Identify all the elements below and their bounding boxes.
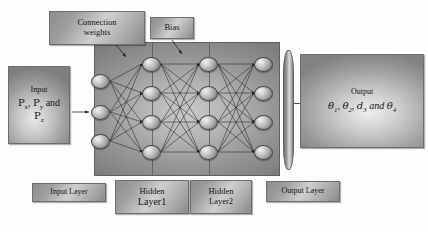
output-conjunction: and (369, 100, 384, 111)
output-variables: θ1, θ2, d3 and θ4 (328, 100, 396, 114)
input-layer-label: Input Layer (32, 183, 106, 202)
input-var-px-sub: x (25, 103, 28, 110)
hidden-layer-1-label: Hidden Layer1 (115, 180, 189, 214)
output-term-1-sub: 1 (334, 106, 337, 113)
neuron-hidden1-4 (142, 145, 161, 160)
neuron-hidden1-2 (142, 86, 161, 101)
neuron-output-1 (254, 57, 273, 72)
output-bracket (283, 50, 294, 170)
output-term-4-sub: 4 (393, 106, 396, 113)
neuron-output-2 (254, 86, 273, 101)
bias-callout-arrow (172, 40, 182, 54)
neuron-hidden2-3 (199, 115, 218, 130)
input-var-pz: P (34, 110, 41, 121)
connection-weights-label: Connection weights (49, 11, 145, 45)
neuron-output-3 (254, 115, 273, 130)
edges-hidden2-to-output (218, 64, 254, 152)
input-box: Input Px, Py and Pz (8, 66, 70, 144)
bias-label-text: Bias (164, 23, 179, 33)
hidden-layer-2-label: Hidden Layer2 (190, 180, 252, 214)
input-var-px: P (18, 97, 25, 108)
neuron-hidden2-4 (199, 145, 218, 160)
edges-input-to-hidden1 (110, 64, 142, 152)
edges-hidden1-to-hidden2 (161, 64, 199, 152)
hidden1-label-line1: Hidden (139, 187, 164, 197)
output-box: Output θ1, θ2, d3 and θ4 (300, 54, 424, 148)
input-var-py-sub: y (40, 103, 43, 110)
input-conjunction: and (46, 97, 60, 108)
input-layer-label-text: Input Layer (50, 188, 88, 197)
input-var-py: P (33, 97, 40, 108)
hidden2-label-line2: Layer2 (209, 197, 233, 207)
output-term-3-sub: 3 (363, 106, 366, 113)
neuron-hidden2-2 (199, 86, 218, 101)
neuron-input-1 (91, 74, 110, 89)
input-var-pz-sub: z (41, 116, 44, 123)
output-term-2-sub: 2 (348, 106, 351, 113)
input-variables: Px, Py and Pz (12, 97, 66, 124)
output-caption: Output (351, 88, 373, 97)
neuron-hidden1-1 (142, 57, 161, 72)
neuron-hidden1-3 (142, 115, 161, 130)
neuron-input-2 (91, 105, 110, 120)
neuron-input-3 (91, 134, 110, 149)
output-layer-label: Output Layer (266, 181, 340, 202)
bias-label: Bias (150, 17, 194, 39)
diagram-canvas: Connection weights Bias Input Px, Py and… (0, 0, 428, 232)
connection-weights-line2: weights (84, 28, 110, 38)
neuron-hidden2-1 (199, 57, 218, 72)
connection-weights-callout-arrow (116, 45, 126, 57)
neuron-output-4 (254, 145, 273, 160)
input-caption: Input (31, 86, 48, 95)
hidden1-label-line2: Layer1 (138, 196, 166, 207)
output-layer-label-text: Output Layer (282, 187, 325, 196)
